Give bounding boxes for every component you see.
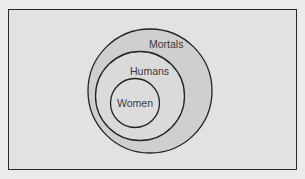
venn-diagram: Mortals Humans Women — [0, 0, 305, 179]
women-label: Women — [117, 97, 153, 109]
mortals-label: Mortals — [149, 38, 183, 50]
humans-label: Humans — [130, 65, 169, 77]
